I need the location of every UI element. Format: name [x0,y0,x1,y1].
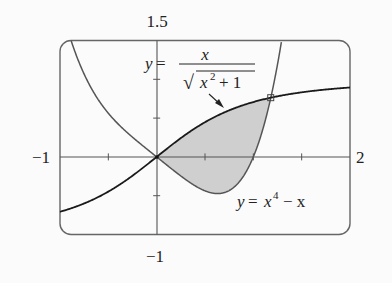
upper-den-rest: + 1 [219,73,241,92]
shaded-region [157,98,271,194]
upper-equals: = [156,54,166,73]
lower-y: y [235,192,245,211]
x-max-label: 2 [356,148,365,167]
upper-numerator: x [200,45,209,64]
lower-equals: = [248,192,258,211]
upper-den-exp: 2 [210,70,216,82]
x-min-label: −1 [32,148,50,167]
lower-exp: 4 [273,189,279,201]
sqrt-sign: √ [183,71,194,93]
lower-rest: − x [283,192,306,211]
origin-point [155,155,159,159]
upper-curve-label: y = x √ x 2 + 1 [143,45,255,108]
upper-den-x: x [199,73,208,92]
lower-x: x [263,192,272,211]
lower-curve-label: y = x 4 − x [235,189,306,211]
y-min-label: −1 [146,247,164,266]
y-max-label: 1.5 [146,12,167,31]
chart: 1.5 −1 −1 2 y = x √ x 2 + 1 y = x 4 − x [0,0,392,283]
plot-area [60,41,350,235]
upper-y: y [143,54,153,73]
